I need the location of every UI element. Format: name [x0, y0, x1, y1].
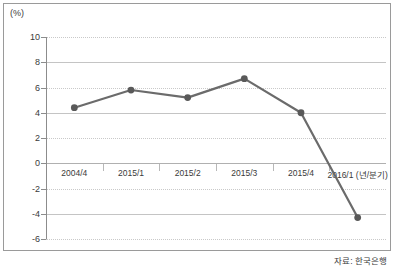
y-tick-label: 4: [14, 108, 40, 118]
plot-area: [46, 37, 386, 239]
y-tick-mark: [41, 214, 46, 215]
y-tick-mark: [41, 189, 46, 190]
y-axis-unit-label: (%): [10, 8, 24, 18]
gridline: [46, 37, 386, 38]
chart-figure: (%) 1086420-2-4-6 2004/42015/12015/22015…: [0, 0, 395, 269]
y-tick-mark: [41, 239, 46, 240]
y-tick-label: 8: [14, 57, 40, 67]
x-tick-separator: [273, 164, 274, 171]
gridline: [46, 88, 386, 89]
x-tick-label: 2015/1: [118, 168, 144, 178]
x-tick-separator: [159, 164, 160, 171]
y-tick-label: -2: [14, 184, 40, 194]
gridline: [46, 62, 386, 63]
y-axis-labels: 1086420-2-4-6: [12, 37, 40, 239]
y-tick-label: -4: [14, 209, 40, 219]
x-tick-separator: [216, 164, 217, 171]
gridline: [46, 239, 386, 240]
gridline: [46, 189, 386, 190]
y-tick-label: 0: [14, 158, 40, 168]
y-tick-mark: [41, 37, 46, 38]
y-tick-mark: [41, 113, 46, 114]
source-note: 자료: 한국은행: [334, 254, 387, 266]
x-tick-label: 2015/4: [288, 168, 314, 178]
y-tick-mark: [41, 138, 46, 139]
y-tick-label: 10: [14, 32, 40, 42]
y-tick-label: -6: [14, 234, 40, 244]
y-tick-mark: [41, 62, 46, 63]
y-tick-label: 6: [14, 83, 40, 93]
y-tick-mark: [41, 88, 46, 89]
gridline: [46, 113, 386, 114]
x-tick-label: 2004/4: [61, 168, 87, 178]
x-tick-label: 2015/3: [231, 168, 257, 178]
x-tick-separator: [103, 164, 104, 171]
x-axis-labels: 2004/42015/12015/22015/32015/42016/1 (년/…: [46, 164, 386, 184]
y-tick-label: 2: [14, 133, 40, 143]
y-axis-line: [46, 37, 47, 239]
gridline: [46, 138, 386, 139]
x-tick-label: 2015/2: [175, 168, 201, 178]
gridline: [46, 214, 386, 215]
x-tick-separator: [329, 164, 330, 171]
y-tick-mark: [41, 163, 46, 164]
x-tick-label: 2016/1 (년/분기): [327, 168, 387, 180]
